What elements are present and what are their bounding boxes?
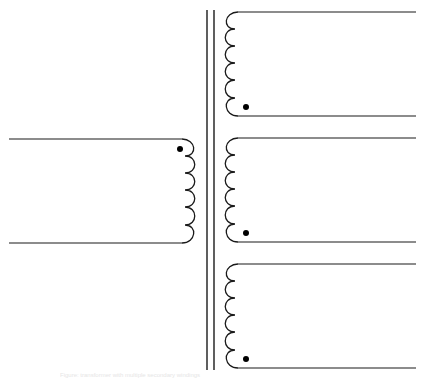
secondary-winding-3: [225, 264, 416, 368]
transformer-diagram: [0, 0, 427, 381]
figure-caption: Figure: transformer with multiple second…: [60, 372, 420, 381]
transformer-core: [207, 10, 214, 370]
secondary-2-coil-icon: [225, 138, 238, 242]
secondary-3-polarity-dot-icon: [243, 356, 249, 362]
secondary-2-polarity-dot-icon: [243, 230, 249, 236]
secondary-winding-2: [225, 138, 416, 242]
secondary-3-coil-icon: [225, 264, 238, 368]
primary-polarity-dot-icon: [177, 146, 183, 152]
secondary-winding-1: [225, 12, 416, 116]
primary-winding: [9, 139, 195, 243]
secondary-1-polarity-dot-icon: [243, 104, 249, 110]
primary-coil-icon: [182, 139, 195, 243]
secondary-1-coil-icon: [225, 12, 238, 116]
